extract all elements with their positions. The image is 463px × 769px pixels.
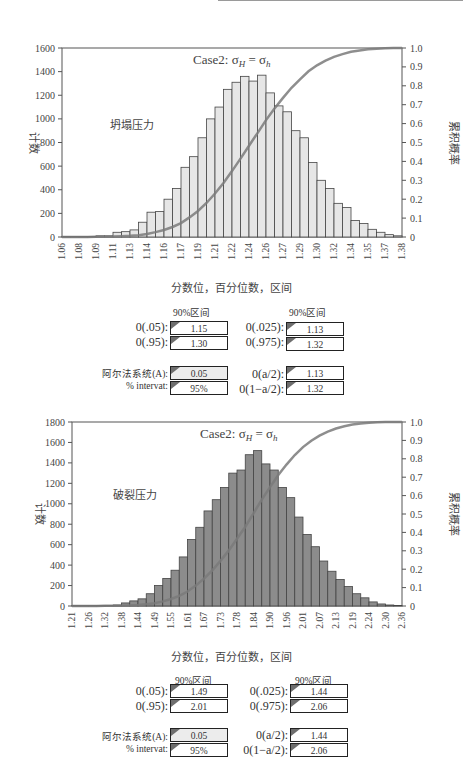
x-tick-label: 1.78	[232, 612, 242, 629]
histogram-bar	[317, 180, 326, 237]
y2-tick-label: 0.6	[410, 118, 423, 129]
y2-tick-label: 0.7	[410, 472, 423, 483]
x-tick-label: 2.01	[298, 612, 308, 629]
x-tick-label: 1.38	[397, 243, 407, 260]
x-tick-label: 1.11	[108, 243, 118, 260]
x-tick-label: 1.14	[142, 243, 152, 260]
q025-label: 0(.025):	[246, 320, 284, 335]
q95-label: 0(.95):	[136, 699, 168, 714]
qa2-label: 0(a/2):	[256, 728, 288, 743]
q1a2-field[interactable]: 2.06	[290, 743, 348, 757]
q025-label: 0(.025):	[250, 684, 288, 699]
field-corner-marker	[171, 744, 180, 751]
q025-field[interactable]: 1.44	[290, 684, 348, 698]
interval-header-left: 90%区间	[173, 305, 210, 319]
histogram-bar	[245, 455, 253, 606]
field-corner-marker	[291, 685, 300, 692]
histogram-bar	[334, 203, 343, 237]
histogram-bar	[249, 81, 258, 237]
histogram-bar	[171, 570, 179, 606]
y2-tick-label: 0.5	[410, 509, 423, 520]
histogram-bar	[320, 561, 328, 606]
x-tick-label: 1.21	[210, 243, 220, 260]
y2-tick-label: 0.4	[410, 527, 423, 538]
histogram-bar	[287, 498, 295, 606]
q95-field[interactable]: 1.30	[170, 336, 228, 350]
field-corner-marker	[171, 685, 180, 692]
histogram-bar	[181, 167, 190, 237]
histogram-bar	[368, 229, 377, 237]
x-tick-label: 1.73	[216, 612, 226, 629]
q05-label: 0(.05):	[136, 684, 168, 699]
y2-tick-label: 0.8	[410, 80, 423, 91]
alpha-field[interactable]: 0.05	[170, 366, 228, 380]
field-corner-marker	[171, 337, 180, 344]
histogram-bar	[377, 232, 386, 237]
q05-field[interactable]: 1.15	[170, 321, 228, 335]
q025-field[interactable]: 1.13	[286, 322, 344, 336]
histogram-bar	[212, 500, 220, 606]
y2-tick-label: 0.9	[410, 435, 423, 446]
q975-field[interactable]: 1.32	[286, 337, 344, 351]
y-tick-label: 1200	[45, 478, 65, 489]
histogram-bar	[278, 487, 286, 606]
y2-tick-label: 0.2	[410, 194, 423, 205]
histogram-bar	[326, 189, 335, 237]
histogram-bar	[221, 487, 229, 606]
histogram-bar	[283, 112, 292, 237]
y-tick-label: 200	[40, 208, 55, 219]
alpha-field[interactable]: 0.05	[170, 728, 228, 742]
histogram-bar	[303, 534, 311, 606]
y-axis-title: 计数	[28, 132, 40, 154]
q95-field[interactable]: 2.01	[170, 699, 228, 713]
x-axis-title: 分数位，百分位数，区间	[0, 279, 463, 295]
histogram-bar	[295, 517, 303, 606]
x-tick-label: 2.13	[331, 612, 341, 629]
x-tick-label: 1.22	[227, 243, 237, 260]
histogram-bar	[385, 235, 394, 237]
histogram-bar	[369, 602, 377, 606]
x-tick-label: 1.35	[363, 243, 373, 260]
x-tick-label: 1.09	[91, 243, 101, 260]
q975-label: 0(.975):	[246, 335, 284, 350]
y2-tick-label: 0.9	[410, 61, 423, 72]
x-axis-title: 分数位，百分位数，区间	[0, 648, 463, 664]
y2-tick-label: 0.7	[410, 99, 423, 110]
x-tick-label: 1.34	[346, 243, 356, 260]
qa2-field[interactable]: 1.44	[290, 728, 348, 742]
chart-annotation: 坍塌压力	[110, 118, 154, 131]
histogram-bar	[204, 511, 212, 606]
field-corner-marker	[287, 338, 296, 345]
x-tick-label: 1.27	[278, 243, 288, 260]
q05-label: 0(.05):	[136, 320, 168, 335]
interval-field[interactable]: 95%	[170, 381, 228, 395]
q1a2-field[interactable]: 1.32	[286, 381, 344, 395]
histogram-bar	[343, 207, 352, 237]
y2-tick-label: 0.8	[410, 453, 423, 464]
chart-title: Case2: σH = σh	[200, 426, 278, 443]
field-corner-marker	[291, 744, 300, 751]
histogram-bar	[394, 605, 402, 606]
x-tick-label: 1.08	[74, 243, 84, 260]
histogram-bar	[328, 571, 336, 606]
y-tick-label: 0	[50, 232, 55, 243]
x-tick-label: 1.96	[282, 612, 292, 629]
field-corner-marker	[171, 322, 180, 329]
q975-field[interactable]: 2.06	[290, 699, 348, 713]
q05-field[interactable]: 1.49	[170, 684, 228, 698]
x-tick-label: 2.19	[348, 612, 358, 629]
field-corner-marker	[287, 367, 296, 374]
x-tick-label: 1.32	[329, 243, 339, 260]
interval-header-right: 90%区间	[289, 305, 326, 319]
interval-field[interactable]: 95%	[170, 743, 228, 757]
y-tick-label: 0	[60, 601, 65, 612]
histogram-bar	[351, 220, 360, 237]
y-tick-label: 400	[40, 184, 55, 195]
x-tick-label: 1.67	[199, 612, 209, 629]
y-axis-title: 计数	[34, 503, 46, 525]
qa2-field[interactable]: 1.13	[286, 366, 344, 380]
field-corner-marker	[171, 700, 180, 707]
q1a2-label: 0(1−a/2):	[243, 743, 288, 758]
histogram-bar	[190, 157, 199, 237]
x-tick-label: 1.37	[380, 243, 390, 260]
